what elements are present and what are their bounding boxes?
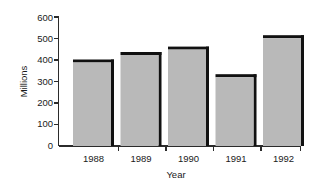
bar-top-edge bbox=[121, 52, 162, 55]
bar-chart: 600 500 400 300 200 100 0 bbox=[0, 0, 328, 188]
bar-face bbox=[73, 63, 111, 147]
x-tick-label-1992: 1992 bbox=[273, 153, 294, 164]
y-tick-label-0: 0 bbox=[48, 140, 53, 151]
x-tick-label-1988: 1988 bbox=[83, 153, 104, 164]
bar-1991 bbox=[216, 74, 257, 146]
bar-face bbox=[121, 55, 159, 146]
bar-top-edge bbox=[216, 74, 257, 77]
chart-canvas: 600 500 400 300 200 100 0 bbox=[0, 0, 328, 188]
y-tick-label-100: 100 bbox=[37, 118, 53, 129]
bar-face bbox=[216, 77, 254, 146]
y-tick-label-200: 200 bbox=[37, 97, 53, 108]
y-tick-label-400: 400 bbox=[37, 54, 53, 65]
bar-right-edge bbox=[301, 35, 304, 146]
bar-face bbox=[168, 50, 206, 146]
y-axis-title: Millions bbox=[18, 65, 29, 97]
bar-face bbox=[263, 38, 301, 146]
x-tick-label-1991: 1991 bbox=[225, 153, 246, 164]
y-tick-label-500: 500 bbox=[37, 33, 53, 44]
bar-top-edge bbox=[168, 47, 209, 50]
x-tick-label-1990: 1990 bbox=[178, 153, 199, 164]
bar-1989 bbox=[121, 52, 162, 146]
bar-top-edge bbox=[73, 60, 114, 63]
bar-right-edge bbox=[111, 60, 114, 147]
x-tick-label-1989: 1989 bbox=[130, 153, 151, 164]
bar-right-edge bbox=[206, 47, 209, 146]
bar-1988 bbox=[73, 60, 114, 147]
bar-right-edge bbox=[254, 74, 257, 146]
bar-1990 bbox=[168, 47, 209, 146]
x-axis-title: Year bbox=[166, 169, 185, 180]
bar-1992 bbox=[263, 35, 304, 146]
bar-top-edge bbox=[263, 35, 304, 38]
y-tick-label-600: 600 bbox=[37, 12, 53, 23]
y-tick-label-300: 300 bbox=[37, 76, 53, 87]
bar-right-edge bbox=[159, 52, 162, 146]
